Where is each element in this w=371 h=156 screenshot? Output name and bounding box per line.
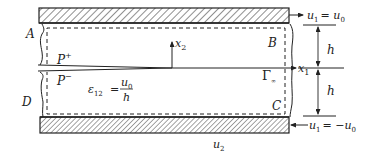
upper-crack-face-label: P+ xyxy=(56,51,72,67)
right-boundary xyxy=(290,24,293,117)
top-rigid-plate xyxy=(39,8,289,23)
x2-axis-label: x2 xyxy=(175,37,186,52)
u2-label: u2 xyxy=(213,138,225,153)
left-boundary-upper xyxy=(40,24,44,65)
lower-crack-face-label: P− xyxy=(56,72,72,88)
strain-denominator: h xyxy=(123,91,130,104)
bottom-boundary-condition: u1= −u0 xyxy=(309,119,356,134)
strain-symbol: ε12 xyxy=(88,83,103,98)
corner-label-a: A xyxy=(25,27,35,41)
top-boundary-condition: u1= u0 xyxy=(307,9,345,24)
corner-label-d: D xyxy=(21,95,32,109)
corner-label-c: C xyxy=(272,99,281,113)
gamma-contour xyxy=(47,28,285,114)
strain-equals: = xyxy=(110,83,119,96)
strain-formula: ε12 = u0 h xyxy=(88,76,133,104)
x1-axis-label: x1 xyxy=(298,62,309,77)
gamma-infinity-label: Γ∞ xyxy=(262,68,276,84)
corner-label-b: B xyxy=(267,36,277,50)
upper-height-label: h xyxy=(327,43,335,57)
bottom-rigid-plate xyxy=(40,117,289,133)
left-boundary-lower xyxy=(40,72,43,117)
crack-strip-diagram: x1 x2 A B C D P+ P− Γ∞ ε12 = u0 h u1= u0… xyxy=(0,0,371,156)
lower-height-label: h xyxy=(327,84,335,98)
